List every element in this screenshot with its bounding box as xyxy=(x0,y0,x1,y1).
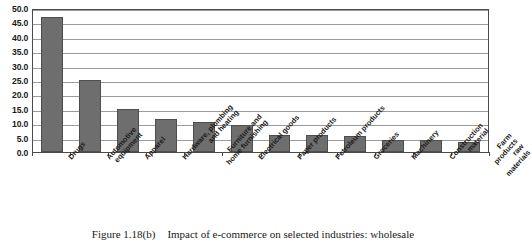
x-axis-tick-labels: DrugsAutomotiveequipmentApparelHardware,… xyxy=(32,156,489,228)
y-tick-label: 50.0 xyxy=(12,5,28,13)
y-tick-label: 25.0 xyxy=(12,77,28,85)
bar[interactable] xyxy=(41,17,63,152)
y-axis-tick-labels: 0.05.010.015.020.025.030.035.040.045.050… xyxy=(0,4,30,154)
y-tick-label: 0.0 xyxy=(17,149,28,157)
x-tick-label: Farm products rawmaterials xyxy=(486,132,532,178)
y-tick-label: 10.0 xyxy=(12,120,28,128)
y-tick-label: 15.0 xyxy=(12,106,28,114)
y-tick-label: 5.0 xyxy=(17,135,28,143)
figure-caption-text: Impact of e-commerce on selected industr… xyxy=(167,228,414,240)
y-tick-label: 20.0 xyxy=(12,91,28,99)
figure-number: Figure 1.18(b) xyxy=(92,228,156,240)
chart-plot-wrapper: 0.05.010.015.020.025.030.035.040.045.050… xyxy=(0,0,506,160)
y-tick-label: 35.0 xyxy=(12,48,28,56)
y-tick-label: 40.0 xyxy=(12,34,28,42)
figure-caption: Figure 1.18(b)Impact of e-commerce on se… xyxy=(0,228,506,240)
y-tick-label: 30.0 xyxy=(12,63,28,71)
bar-slot xyxy=(147,10,185,152)
bar-slot xyxy=(33,10,71,152)
y-tick-label: 45.0 xyxy=(12,19,28,27)
bar-slot xyxy=(71,10,109,152)
